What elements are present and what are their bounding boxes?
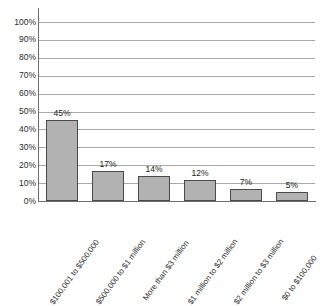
x-axis-category-label: $100,001 to $500,000 (48, 238, 101, 306)
bar-value-label: 7% (222, 178, 270, 187)
y-axis-tick-label: 40% (0, 125, 36, 134)
bar[interactable] (138, 176, 170, 201)
y-axis-tick-label: 100% (0, 18, 36, 27)
bar[interactable] (230, 189, 262, 202)
x-axis-category-labels: $100,001 to $500,000 $500,000 to $1 mill… (0, 201, 329, 306)
bar[interactable] (92, 171, 124, 201)
bar[interactable] (184, 180, 216, 202)
x-axis-category-label: $500,000 to $1 million (94, 238, 147, 306)
x-axis-category-label: $1 million to $2 million (186, 237, 240, 306)
y-axis-tick-label: 10% (0, 179, 36, 188)
bar-value-label: 14% (130, 165, 178, 174)
bar-value-label: 45% (38, 109, 86, 118)
x-axis-category-label: $0 to $100,000 (280, 254, 319, 302)
plot-area: 45% 17% 14% 12% 7% 5% (39, 22, 315, 201)
x-axis-category-label: $2 million to $3 million (232, 237, 286, 306)
x-axis-category-label: More than $3 million (141, 239, 191, 303)
bar-value-label: 12% (176, 169, 224, 178)
y-axis-tick-label: 90% (0, 35, 36, 44)
bar-chart: 100% 90% 80% 70% 60% 50% 40% 30% 20% 10%… (0, 0, 329, 306)
bars: 45% 17% 14% 12% 7% 5% (39, 22, 315, 201)
bar-value-label: 17% (84, 160, 132, 169)
y-axis-line (38, 8, 39, 202)
y-axis-tick-label: 30% (0, 143, 36, 152)
y-axis-tick-label: 80% (0, 53, 36, 62)
bar[interactable] (276, 192, 308, 201)
y-axis-tick-label: 20% (0, 161, 36, 170)
y-axis-tick-label: 60% (0, 89, 36, 98)
y-axis-tick-label: 70% (0, 71, 36, 80)
y-axis-tick-label: 50% (0, 107, 36, 116)
bar[interactable] (46, 120, 78, 201)
bar-value-label: 5% (268, 181, 316, 190)
